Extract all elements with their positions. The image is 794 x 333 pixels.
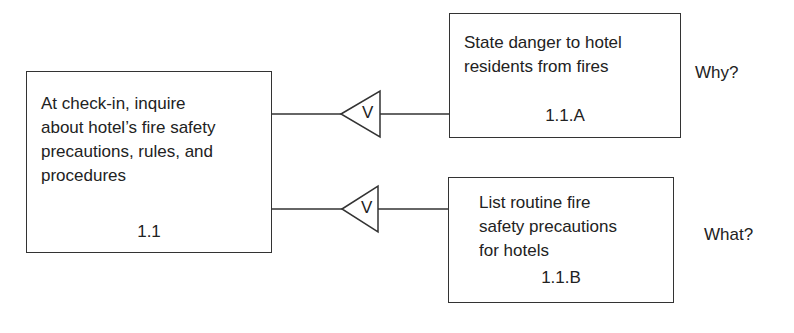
- subtask-box-a: State danger to hotel residents from fir…: [449, 13, 681, 138]
- connector-label-top: V: [362, 103, 373, 123]
- why-label: Why?: [695, 63, 738, 83]
- connector-label-bottom: V: [361, 198, 372, 218]
- main-task-number: 1.1: [27, 222, 271, 242]
- subtask-a-text: State danger to hotel residents from fir…: [464, 31, 622, 79]
- subtask-b-number: 1.1.B: [449, 268, 673, 288]
- main-task-text: At check-in, inquire about hotel’s fire …: [41, 92, 216, 188]
- main-task-box: At check-in, inquire about hotel’s fire …: [26, 71, 272, 253]
- what-label: What?: [704, 225, 753, 245]
- subtask-b-text: List routine fire safety precautions for…: [479, 191, 617, 263]
- subtask-a-number: 1.1.A: [450, 106, 680, 126]
- subtask-box-b: List routine fire safety precautions for…: [448, 177, 674, 303]
